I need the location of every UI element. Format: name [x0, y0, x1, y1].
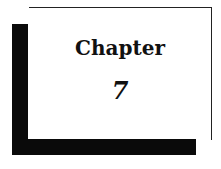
right-border-line: [211, 7, 212, 140]
chapter-heading: Chapter: [0, 36, 221, 60]
chapter-number: 7: [0, 76, 221, 105]
bottom-black-bar: [12, 139, 196, 155]
top-border-line: [29, 7, 212, 8]
